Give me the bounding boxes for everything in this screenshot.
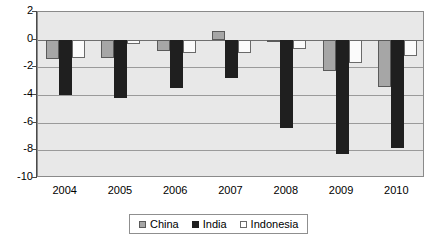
legend-label: Indonesia (251, 219, 299, 230)
bar-india-2008 (280, 40, 293, 129)
bar-group-2005 (93, 12, 148, 176)
bar-china-2004 (46, 40, 59, 59)
x-tick-label: 2009 (313, 184, 368, 196)
bar-indonesia-2005 (127, 40, 140, 44)
legend-swatch-icon (139, 221, 146, 228)
x-tick-label: 2006 (148, 184, 203, 196)
y-tick-label: -10 (5, 171, 33, 182)
legend-label: India (203, 219, 227, 230)
bar-china-2006 (157, 40, 170, 51)
x-tick-label: 2010 (369, 184, 424, 196)
x-axis-tick-labels: 2004200520062007200820092010 (37, 184, 424, 200)
y-tick-label: 2 (5, 5, 33, 16)
bar-india-2010 (391, 40, 404, 148)
legend-entry-indonesia[interactable]: Indonesia (240, 219, 299, 230)
bar-group-2008 (259, 12, 314, 176)
bar-group-2009 (314, 12, 369, 176)
bar-indonesia-2008 (293, 40, 306, 50)
legend-entry-india[interactable]: India (192, 219, 227, 230)
y-tick-label: -8 (5, 143, 33, 154)
y-tick-mark (32, 177, 37, 178)
legend-swatch-icon (192, 221, 199, 228)
legend-entry-china[interactable]: China (139, 219, 179, 230)
y-tick-label: 0 (5, 33, 33, 44)
bar-china-2005 (101, 40, 114, 58)
bar-india-2006 (170, 40, 183, 88)
bar-india-2009 (336, 40, 349, 155)
plot-area (37, 11, 424, 177)
bar-indonesia-2004 (72, 40, 85, 58)
y-tick-label: -4 (5, 88, 33, 99)
bar-china-2008 (267, 40, 280, 42)
bar-china-2009 (323, 40, 336, 72)
bar-group-2006 (149, 12, 204, 176)
bar-chart: 20-2-4-6-8-10 20042005200620072008200920… (0, 0, 432, 242)
y-tick-label: -6 (5, 116, 33, 127)
x-tick-label: 2007 (203, 184, 258, 196)
bar-group-2004 (38, 12, 93, 176)
bar-india-2004 (59, 40, 72, 95)
bar-indonesia-2006 (183, 40, 196, 54)
bar-china-2010 (378, 40, 391, 87)
bar-india-2005 (114, 40, 127, 98)
bar-indonesia-2010 (404, 40, 417, 57)
legend-label: China (150, 219, 179, 230)
y-tick-label: -2 (5, 60, 33, 71)
x-tick-label: 2004 (37, 184, 92, 196)
bar-china-2007 (212, 31, 225, 39)
x-tick-label: 2005 (92, 184, 147, 196)
bar-group-2007 (204, 12, 259, 176)
y-axis-tick-labels: 20-2-4-6-8-10 (0, 0, 33, 242)
bar-indonesia-2009 (349, 40, 362, 64)
legend-swatch-icon (240, 221, 247, 228)
bar-india-2007 (225, 40, 238, 79)
x-tick-label: 2008 (258, 184, 313, 196)
bar-indonesia-2007 (238, 40, 251, 54)
bar-group-2010 (370, 12, 424, 176)
chart-legend: ChinaIndiaIndonesia (129, 214, 308, 234)
bars-layer (38, 12, 423, 176)
